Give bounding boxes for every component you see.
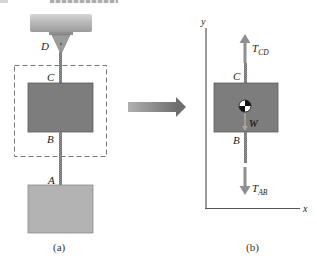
cable-stub-b [244,132,247,163]
label-b-a: B [47,133,54,145]
y-axis-label: y [200,16,206,27]
force-label-t-cd: TCD [252,42,269,57]
label-c-a: C [47,71,55,83]
label-b-b: B [233,134,240,146]
caption-b: (b) [246,241,259,254]
cable-cd [59,52,62,83]
transition-arrow-icon [128,97,186,117]
ceiling-support [30,14,92,32]
cable-ab [59,132,62,185]
force-label-w: W [249,118,259,129]
center-of-gravity-icon [239,100,251,112]
hanger-bracket-d [49,32,73,52]
caption-a: (a) [53,241,66,254]
label-c-b: C [233,70,241,82]
free-body-diagram-figure: D C B A (a) y x TCD C [0,0,317,262]
panel-a: D C B A (a) [15,14,107,254]
force-arrow-t-cd-icon [240,34,251,63]
label-a: A [47,174,55,186]
cable-stub-c [244,63,247,83]
force-arrow-t-ab-icon [240,167,251,195]
upper-block [28,83,93,132]
label-d: D [40,40,49,52]
x-axis-label: x [302,203,308,214]
lower-block [28,185,93,233]
force-label-t-ab: TAB [252,182,268,197]
panel-b: y x TCD C W B TA [200,16,308,254]
